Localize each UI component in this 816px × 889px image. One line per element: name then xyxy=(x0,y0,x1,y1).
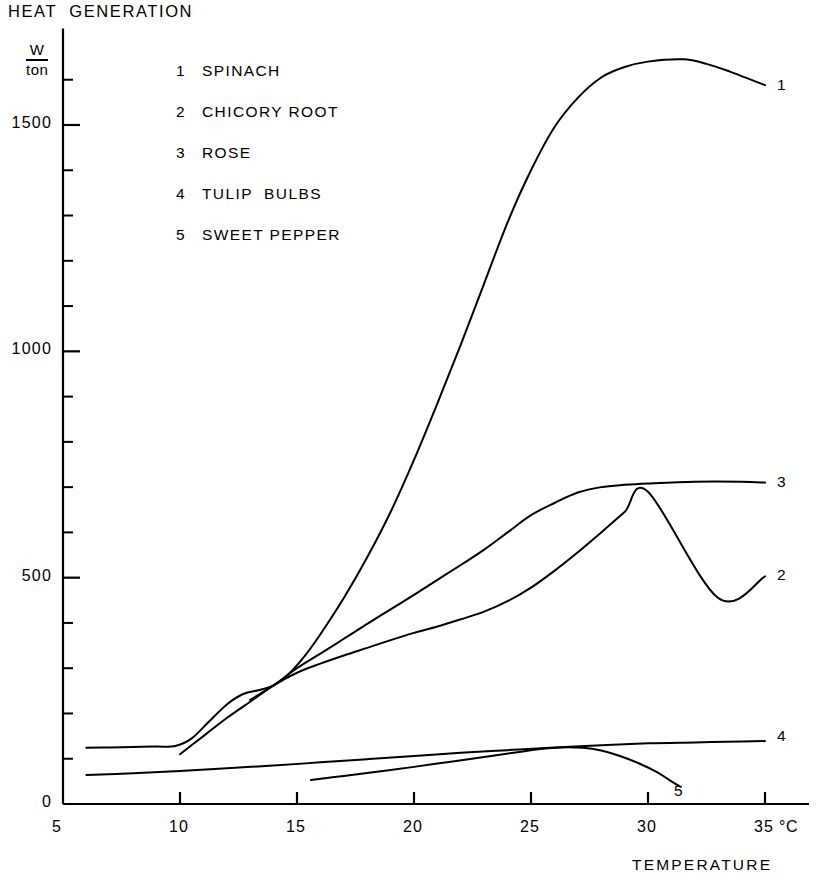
x-tick-label-5: 5 xyxy=(52,818,62,836)
legend-label-4: TULIP BULBS xyxy=(202,185,322,203)
legend-label-2: CHICORY ROOT xyxy=(202,103,339,121)
x-tick-label-25: 25 xyxy=(520,818,540,836)
legend-item-1: 1 SPINACH xyxy=(176,62,341,103)
legend-item-5: 5 SWEET PEPPER xyxy=(176,226,341,267)
x-axis-unit-label: °C xyxy=(779,818,798,836)
page-title: HEAT GENERATION xyxy=(8,2,193,21)
legend-key-3: 3 xyxy=(176,144,202,162)
x-axis-caption: TEMPERATURE xyxy=(632,856,772,874)
legend-item-2: 2 CHICORY ROOT xyxy=(176,103,341,144)
y-axis-unit-denominator: ton xyxy=(26,61,48,78)
legend-item-4: 4 TULIP BULBS xyxy=(176,185,341,226)
y-axis-unit-numerator: W xyxy=(26,42,48,61)
curve-end-label-1: 1 xyxy=(777,76,786,94)
legend-item-3: 3 ROSE xyxy=(176,144,341,185)
tick-marks xyxy=(63,80,765,804)
legend-key-2: 2 xyxy=(176,103,202,121)
legend-key-1: 1 xyxy=(176,62,202,80)
y-axis-unit-label: W ton xyxy=(26,42,48,78)
legend: 1 SPINACH 2 CHICORY ROOT 3 ROSE 4 TULIP … xyxy=(176,62,341,267)
x-tick-label-30: 30 xyxy=(637,818,657,836)
curve-3 xyxy=(250,482,765,700)
curve-2 xyxy=(180,488,765,755)
y-tick-label-500: 500 xyxy=(4,567,52,585)
legend-key-5: 5 xyxy=(176,226,202,244)
x-tick-label-20: 20 xyxy=(403,818,423,836)
x-tick-label-15: 15 xyxy=(286,818,306,836)
chart-figure: HEAT GENERATION W ton 1 SPINACH 2 CHICOR… xyxy=(0,0,816,889)
legend-label-5: SWEET PEPPER xyxy=(202,226,341,244)
curve-end-label-3: 3 xyxy=(777,473,786,491)
curve-end-label-5: 5 xyxy=(674,782,683,800)
plot-area xyxy=(0,0,816,889)
curve-end-label-2: 2 xyxy=(777,566,786,584)
curve-4 xyxy=(86,741,765,775)
x-tick-label-10: 10 xyxy=(169,818,189,836)
curve-end-label-4: 4 xyxy=(777,727,786,745)
axis-lines xyxy=(63,28,809,804)
curve-5 xyxy=(311,747,681,786)
x-tick-label-35: 35 xyxy=(754,818,774,836)
y-tick-label-1500: 1500 xyxy=(4,114,52,132)
legend-label-1: SPINACH xyxy=(202,62,281,80)
legend-label-3: ROSE xyxy=(202,144,252,162)
legend-key-4: 4 xyxy=(176,185,202,203)
y-tick-label-0: 0 xyxy=(4,793,52,811)
y-tick-label-1000: 1000 xyxy=(4,340,52,358)
